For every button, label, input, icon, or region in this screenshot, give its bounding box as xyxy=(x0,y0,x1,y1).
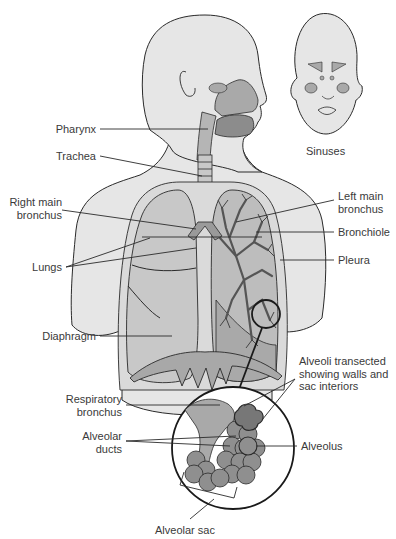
label-pharynx: Pharynx xyxy=(40,123,96,136)
label-bronchiole: Bronchiole xyxy=(338,226,390,239)
alveolus-highlight xyxy=(239,437,257,455)
oral-cavity xyxy=(215,115,254,137)
label-right-main-bronchus: Right main bronchus xyxy=(0,196,62,221)
label-alveolar-sac: Alveolar sac xyxy=(155,524,215,537)
label-trachea: Trachea xyxy=(40,150,96,163)
label-pleura: Pleura xyxy=(338,254,370,267)
label-diaphragm: Diaphragm xyxy=(20,330,96,343)
label-lungs: Lungs xyxy=(20,261,62,274)
label-alveolus: Alveolus xyxy=(301,440,343,453)
respiratory-system-diagram: Pharynx Trachea Sinuses Right main bronc… xyxy=(0,0,396,539)
frontal-face xyxy=(291,13,362,134)
label-sinuses: Sinuses xyxy=(306,145,345,158)
label-alveolar-ducts: Alveolar ducts xyxy=(40,430,122,455)
label-left-main-bronchus: Left main bronchus xyxy=(338,190,383,215)
label-respiratory-bronchus: Respiratory bronchus xyxy=(40,393,122,418)
label-alveoli-transected: Alveoli transected showing walls and sac… xyxy=(299,355,388,393)
sinus-frontal-side xyxy=(209,83,227,93)
